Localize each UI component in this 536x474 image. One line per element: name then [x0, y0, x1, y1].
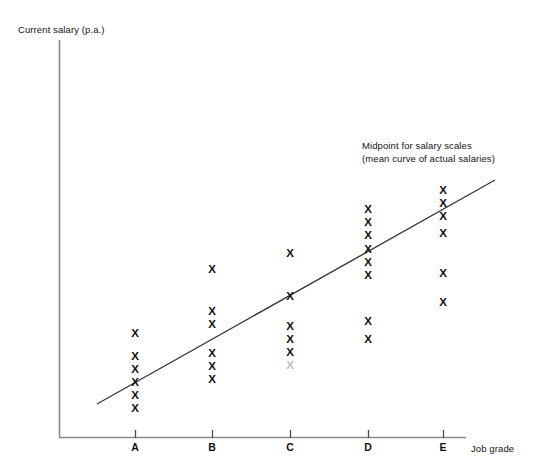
data-point-marker: X: [435, 209, 451, 223]
data-point-marker: X: [127, 326, 143, 340]
x-tick-label-e: E: [433, 441, 453, 453]
data-point-marker: X: [204, 317, 220, 331]
data-point-marker: X: [204, 346, 220, 360]
axes-group: [59, 40, 466, 438]
x-tick-label-b: B: [202, 441, 222, 453]
data-point-marker: X: [204, 359, 220, 373]
x-axis-title: Job grade: [471, 443, 514, 455]
data-point-marker: X: [360, 314, 376, 328]
annotation-line-1: Midpoint for salary scales: [362, 140, 495, 153]
x-tick-label-a: A: [125, 441, 145, 453]
data-point-marker: X: [435, 226, 451, 240]
data-point-marker: X: [204, 372, 220, 386]
data-point-marker: X: [282, 358, 298, 372]
data-point-marker: X: [435, 266, 451, 280]
data-point-marker: X: [127, 362, 143, 376]
annotation-line-2: (mean curve of actual salaries): [362, 153, 495, 166]
data-point-marker: X: [282, 319, 298, 333]
data-point-marker: X: [360, 242, 376, 256]
data-point-marker: X: [127, 388, 143, 402]
data-point-marker: X: [282, 345, 298, 359]
data-point-marker: X: [360, 202, 376, 216]
data-point-marker: X: [282, 332, 298, 346]
data-point-marker: X: [360, 332, 376, 346]
data-point-marker: X: [435, 183, 451, 197]
salary-scatter-figure: Current salary (p.a.) Job grade A B C D …: [0, 0, 536, 474]
y-axis-title: Current salary (p.a.): [18, 24, 105, 36]
x-tick-label-d: D: [358, 441, 378, 453]
data-point-marker: X: [435, 295, 451, 309]
trend-line-annotation: Midpoint for salary scales (mean curve o…: [362, 140, 495, 165]
data-point-marker: X: [360, 228, 376, 242]
data-point-marker: X: [282, 289, 298, 303]
data-point-marker: X: [360, 255, 376, 269]
data-point-marker: X: [282, 246, 298, 260]
x-tick-label-c: C: [280, 441, 300, 453]
plot-canvas: [0, 0, 536, 474]
data-point-marker: X: [360, 268, 376, 282]
data-point-marker: X: [435, 196, 451, 210]
data-point-marker: X: [127, 349, 143, 363]
data-point-marker: X: [204, 304, 220, 318]
data-point-marker: X: [204, 262, 220, 276]
data-point-marker: X: [360, 215, 376, 229]
data-point-marker: X: [127, 375, 143, 389]
data-point-marker: X: [127, 401, 143, 415]
